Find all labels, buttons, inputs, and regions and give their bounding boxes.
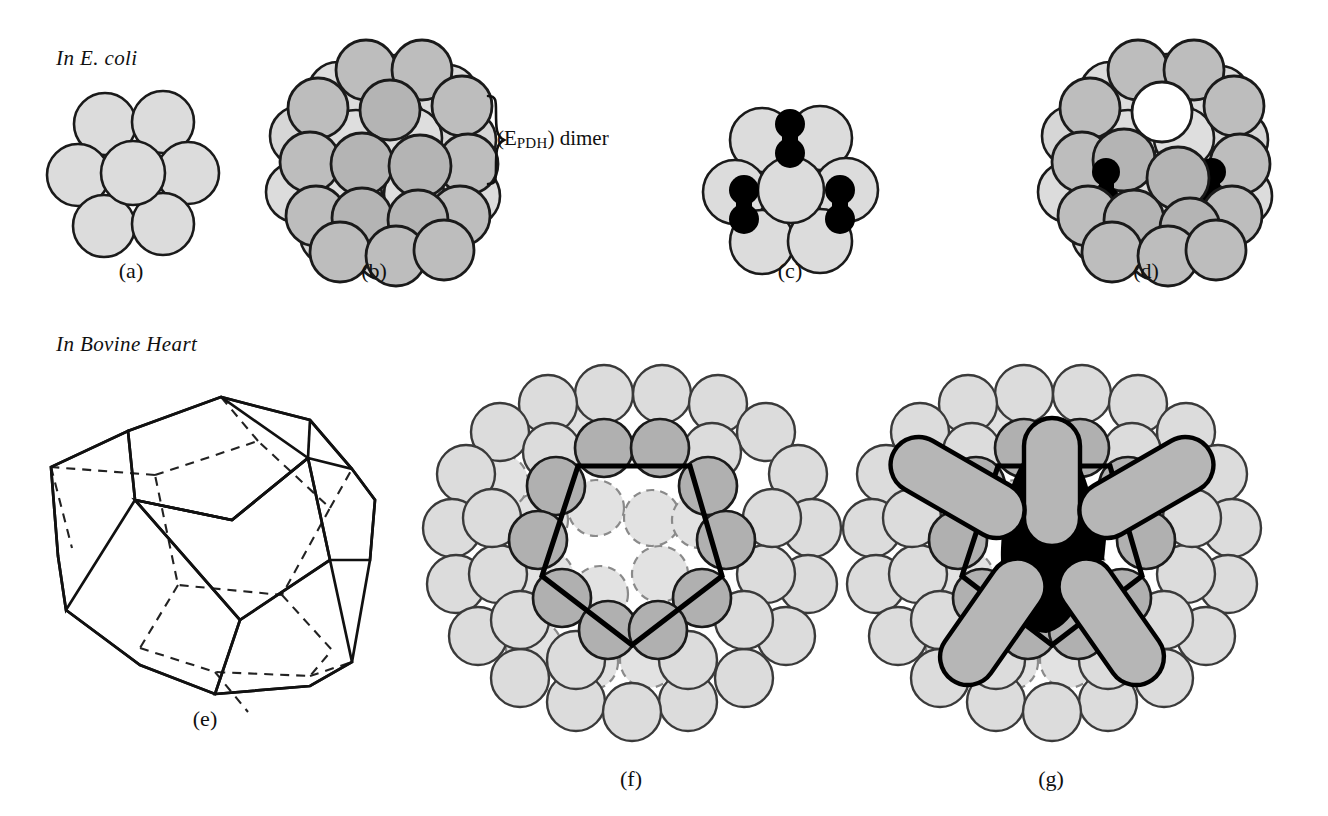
diagram-canvas <box>0 0 1328 816</box>
panel-g-complex-with-rods <box>843 365 1261 741</box>
panel-e-dodecahedron <box>51 397 375 712</box>
panel-caption-c: (c) <box>778 258 802 284</box>
dodecahedron-hidden-edges <box>51 397 352 712</box>
rod-top <box>1024 418 1080 546</box>
panel-caption-f: (f) <box>620 766 642 792</box>
panel-c-core-with-lipoyl <box>703 106 878 274</box>
outer-ring-spheres-f <box>423 365 841 741</box>
panel-caption-b: (b) <box>361 258 387 284</box>
dimer-suffix: ) dimer <box>547 126 608 150</box>
panel-b-assembled-core <box>266 40 500 286</box>
panel-caption-e: (e) <box>193 706 217 732</box>
dimer-prefix: (E <box>497 126 517 150</box>
panel-caption-a: (a) <box>119 258 143 284</box>
dodecahedron-visible-edges <box>51 397 375 694</box>
panel-caption-g: (g) <box>1038 766 1064 792</box>
panel-f-dodecahedral-core <box>423 365 841 741</box>
dimer-subscript: PDH <box>517 135 548 151</box>
panel-caption-d: (d) <box>1133 258 1159 284</box>
dimer-annotation: (EPDH) dimer <box>497 126 609 152</box>
panel-d-full-complex <box>1038 40 1272 286</box>
panel-a-core-cube <box>47 91 219 257</box>
figure-root: In E. coli In Bovine Heart <box>0 0 1328 816</box>
